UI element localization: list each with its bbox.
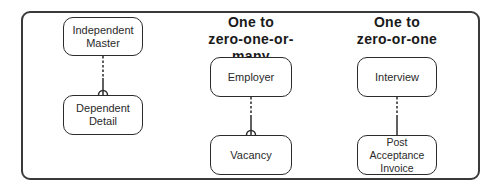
entity-interview: Interview	[357, 57, 437, 97]
entity-post-acceptance-invoice: Post Acceptance Invoice	[357, 135, 437, 175]
entity-independent-master: Independent Master	[63, 17, 143, 56]
entity-dependent-detail: Dependent Detail	[63, 95, 143, 135]
entity-vacancy: Vacancy	[210, 135, 292, 175]
entity-employer: Employer	[210, 57, 292, 97]
heading-one-to-zero-or-one: One to zero-or-one	[347, 14, 447, 48]
